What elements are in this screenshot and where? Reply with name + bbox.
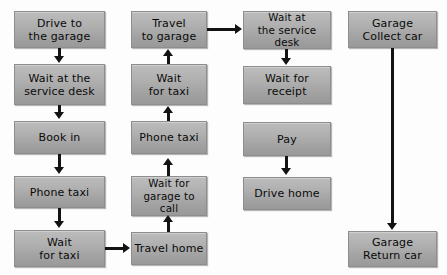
edge-waitgarage-to-phonetaxi2-arrowhead [163, 158, 173, 165]
node-wait-for-garage-to-call[interactable]: Wait for garage to call [131, 176, 207, 216]
node-phone-taxi[interactable]: Phone taxi [14, 176, 105, 208]
node-wait-for-receipt[interactable]: Wait for receipt [243, 66, 331, 104]
node-drive-home[interactable]: Drive home [243, 177, 331, 210]
edge-waittaxi2-to-travelgarage-arrowhead [163, 49, 173, 56]
edge-pay-to-drivehome-arrowhead [281, 168, 291, 175]
node-phone-taxi-2[interactable]: Phone taxi [131, 121, 207, 154]
node-drive-to-the-garage[interactable]: Drive to the garage [14, 11, 105, 48]
node-wait-for-taxi[interactable]: Wait for taxi [14, 230, 105, 267]
edge-phone-to-waittaxi-arrowhead [54, 221, 64, 228]
node-pay[interactable]: Pay [243, 122, 331, 156]
edge-phonetaxi2-to-waittaxi2-arrowhead [163, 106, 173, 113]
edge-travelhome-to-waitgarage-arrowhead [163, 215, 173, 222]
edge-bookin-to-phone-arrowhead [54, 167, 64, 174]
edge-waittaxi-to-travelhome-arrowhead [123, 243, 130, 253]
edge-phonetaxi2-to-waittaxi2-line [167, 112, 170, 121]
node-travel-home[interactable]: Travel home [131, 232, 207, 265]
edge-waitdesk2-to-receipt-arrowhead [281, 58, 291, 65]
edge-travelgarage-to-waitdesk2-line [207, 28, 236, 31]
edge-waittaxi-to-travelhome-line [105, 247, 124, 250]
node-garage-collect-car[interactable]: Garage Collect car [348, 11, 437, 48]
flowchart-canvas: Drive to the garage Wait at the service … [0, 0, 447, 275]
edge-waittaxi2-to-travelgarage-line [167, 55, 170, 64]
edge-waitgarage-to-phonetaxi2-line [167, 165, 170, 176]
edge-phone-to-waittaxi-line [58, 208, 61, 222]
node-wait-at-the-service-desk-2[interactable]: Wait at the service desk [243, 11, 331, 49]
edge-drive-to-wait-arrowhead [54, 56, 64, 63]
node-book-in[interactable]: Book in [14, 121, 105, 154]
node-wait-for-taxi-2[interactable]: Wait for taxi [131, 64, 207, 105]
node-travel-to-garage[interactable]: Travel to garage [131, 11, 207, 48]
edge-travelgarage-to-waitdesk2-arrowhead [235, 24, 242, 34]
edge-collect-to-return-line [391, 48, 394, 225]
edge-wait-to-bookin-arrowhead [54, 112, 64, 119]
node-garage-return-car[interactable]: Garage Return car [348, 231, 437, 267]
edge-travelhome-to-waitgarage-line [167, 222, 170, 232]
edge-bookin-to-phone-line [58, 154, 61, 168]
edge-collect-to-return-arrowhead [387, 223, 397, 230]
node-wait-at-the-service-desk[interactable]: Wait at the service desk [14, 64, 105, 105]
